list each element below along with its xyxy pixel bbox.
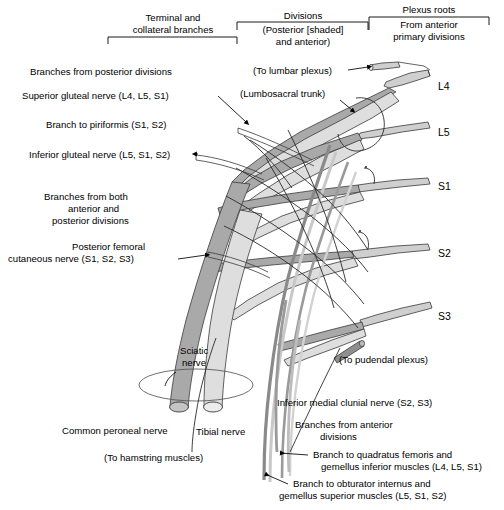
branch-quadratus-leader: [280, 453, 308, 455]
plexus-roots-line1: Plexus roots: [403, 4, 456, 15]
lumbar-plexus-connector: [398, 62, 430, 70]
root-s1-shape: [358, 178, 430, 192]
branches-both-line1: Branches from both: [44, 191, 128, 202]
superior-gluteal-leader: [218, 96, 246, 122]
divisions-line2: (Posterior [shaded]: [262, 24, 343, 35]
inferior-gluteal-nerve-label: Inferior gluteal nerve (L5, S1, S2): [29, 149, 170, 160]
root-s3-shape: [360, 302, 432, 327]
root-label-s1: S1: [438, 180, 451, 192]
branch-obturator-line1: Branch to obturator internus and: [293, 478, 431, 489]
branch-obturator-leader: [265, 474, 288, 484]
sacral-plexus-figure: Terminal and collateral branches Divisio…: [0, 0, 504, 510]
posterior-femoral-leader: [178, 255, 206, 259]
terminal-collateral-line1: Terminal and: [146, 12, 201, 23]
superior-gluteal-nerve-label: Superior gluteal nerve (L4, L5, S1): [22, 90, 169, 101]
to-hamstring-muscles-label: (To hamstring muscles): [104, 452, 203, 463]
branches-posterior-divisions-label: Branches from posterior divisions: [30, 66, 172, 77]
bracket-terminal-collateral: [108, 37, 237, 44]
branch-obturator-line2: gemellus superior muscles (L5, S1, S2): [279, 490, 446, 501]
branches-both-line2: anterior and: [68, 203, 119, 214]
common-peroneal-cut-end: [170, 402, 189, 412]
to-lumbar-plexus-label: (To lumbar plexus): [253, 65, 332, 76]
divisions-line1: Divisions: [284, 10, 323, 21]
branch-quadratus-line2: gemellus inferior muscles (L4, L5, S1): [321, 461, 482, 472]
branches-both-line3: posterior divisions: [52, 215, 129, 226]
posterior-femoral-line1: Posterior femoral: [72, 241, 145, 252]
sciatic-sheath-ellipse: [139, 369, 253, 401]
tibial-nerve-label: Tibial nerve: [196, 426, 245, 437]
divisions-line3: and anterior): [276, 36, 330, 47]
posterior-femoral-line2: cutaneous nerve (S1, S2, S3): [8, 253, 134, 264]
to-lumbar-plexus-leader: [348, 67, 368, 70]
root-tick-s2: [358, 232, 369, 249]
root-dot-s1: [365, 166, 367, 168]
plexus-roots-line2: From anterior: [400, 19, 458, 30]
terminal-collateral-line2: collateral branches: [133, 24, 214, 35]
root-l5-shape: [358, 122, 430, 139]
to-lumbar-plexus-stub: [369, 62, 400, 71]
root-s2-shape: [352, 244, 430, 259]
root-label-s2: S2: [438, 247, 451, 259]
root-label-l5: L5: [438, 126, 450, 138]
root-label-l4: L4: [438, 80, 450, 92]
header-bracket-labels: Terminal and collateral branches Divisio…: [133, 4, 465, 47]
sciatic-nerve-line2: nerve: [182, 357, 206, 368]
branch-to-piriformis-label: Branch to piriformis (S1, S2): [46, 119, 167, 130]
root-l4-shape: [384, 70, 430, 88]
lumbosacral-trunk-label: (Lumbosacral trunk): [240, 88, 325, 99]
sciatic-nerve-line1: Sciatic: [180, 345, 208, 356]
tibial-nerve-cut-end: [204, 402, 223, 412]
root-dot-s2: [359, 230, 361, 232]
root-label-s3: S3: [438, 310, 451, 322]
lumbosacral-trunk-leader: [340, 100, 352, 110]
plexus-roots-line3: primary divisions: [393, 31, 465, 42]
root-tick-s1: [364, 168, 375, 184]
to-pudendal-plexus-label: (To pudendal plexus): [339, 354, 428, 365]
branches-anterior-line1: Branches from anterior: [295, 419, 393, 430]
common-peroneal-nerve-label: Common peroneal nerve: [62, 425, 168, 436]
branch-quadratus-line1: Branch to quadratus femoris and: [313, 449, 452, 460]
plexus-diagram: Terminal and collateral branches Divisio…: [0, 0, 504, 510]
branches-anterior-line2: divisions: [320, 431, 357, 442]
root-label-group: L4 L5 S1 S2 S3: [438, 80, 451, 322]
inferior-medial-clunial-label: Inferior medial clunial nerve (S2, S3): [277, 397, 432, 408]
